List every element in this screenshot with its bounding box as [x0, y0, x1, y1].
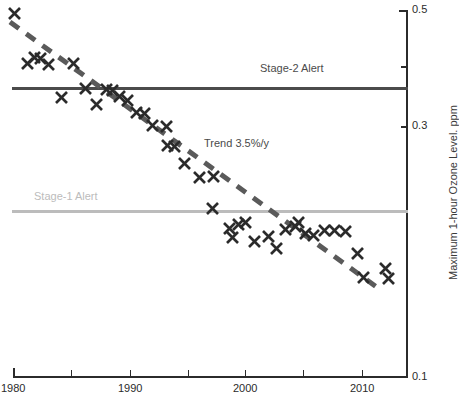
data-point — [90, 98, 103, 111]
data-point — [146, 119, 159, 132]
data-point — [67, 57, 80, 70]
data-point — [206, 202, 219, 215]
data-point — [178, 157, 191, 170]
data-point — [55, 91, 68, 104]
data-point — [207, 170, 220, 183]
data-point — [357, 271, 370, 284]
data-point — [160, 120, 173, 133]
data-point — [193, 171, 206, 184]
data-point — [248, 235, 261, 248]
data-point — [226, 231, 239, 244]
data-point — [351, 247, 364, 260]
data-point — [382, 272, 395, 285]
data-point — [239, 216, 252, 229]
data-point — [270, 242, 283, 255]
data-point — [339, 225, 352, 238]
data-point — [8, 7, 21, 20]
data-point — [79, 82, 92, 95]
data-point — [42, 58, 55, 71]
data-point — [168, 140, 181, 153]
